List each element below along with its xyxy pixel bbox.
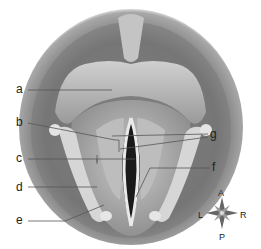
larynx-diagram: a b c d e f g A P L R	[0, 0, 261, 249]
larynx-illustration	[0, 0, 261, 249]
label-d: d	[16, 181, 23, 193]
compass-anterior: A	[218, 187, 224, 199]
compass-posterior: P	[219, 231, 225, 243]
label-c: c	[16, 152, 22, 164]
label-g: g	[210, 128, 217, 140]
label-a: a	[16, 83, 23, 95]
compass-left: L	[198, 209, 203, 221]
label-f: f	[212, 161, 215, 173]
compass-right: R	[240, 209, 247, 221]
label-e: e	[16, 214, 23, 226]
label-b: b	[16, 116, 23, 128]
